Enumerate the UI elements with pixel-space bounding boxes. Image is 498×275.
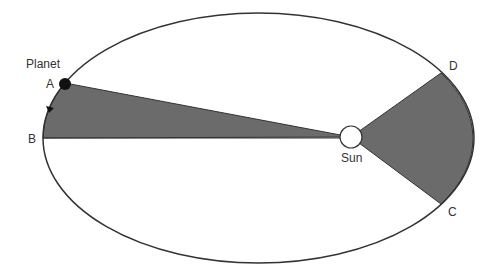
label-c: C bbox=[448, 205, 457, 219]
sector-cd bbox=[351, 73, 473, 204]
orbit-diagram: Planet A B Sun D C bbox=[0, 0, 498, 275]
sun bbox=[340, 126, 362, 148]
planet bbox=[59, 78, 71, 90]
label-a: A bbox=[46, 77, 54, 91]
label-planet: Planet bbox=[26, 57, 61, 71]
label-d: D bbox=[449, 59, 458, 73]
sector-ab bbox=[43, 83, 351, 138]
label-b: B bbox=[28, 132, 36, 146]
label-sun: Sun bbox=[341, 151, 362, 165]
